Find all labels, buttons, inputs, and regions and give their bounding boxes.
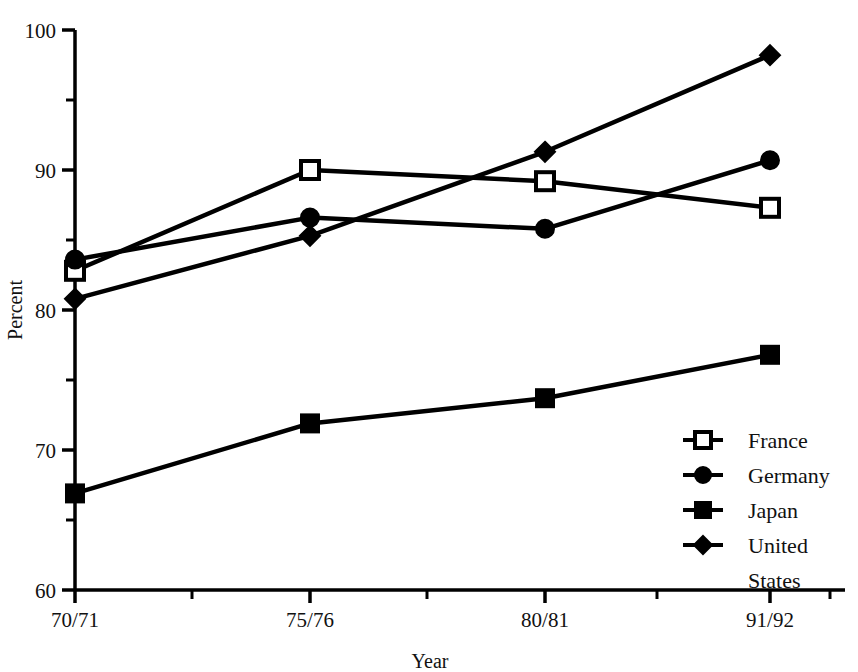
data-point-united-states-91-92 — [760, 45, 780, 65]
data-point-france-80-81 — [536, 172, 554, 190]
chart-container: 6070809010070/7175/7680/8191/92PercentYe… — [0, 0, 858, 672]
data-point-germany-80-81 — [536, 220, 554, 238]
legend-label-states: States — [748, 568, 801, 593]
legend-marker-united-states — [694, 536, 712, 554]
x-tick-label: 80/81 — [521, 608, 569, 632]
data-point-japan-80-81 — [536, 389, 554, 407]
data-point-japan-91-92 — [761, 346, 779, 364]
data-point-united-states-70-71 — [65, 289, 85, 309]
y-tick-label: 70 — [35, 439, 56, 463]
data-point-united-states-75-76 — [300, 226, 320, 246]
x-tick-label: 75/76 — [286, 608, 334, 632]
legend-label-japan: Japan — [748, 498, 798, 523]
legend-marker-france — [695, 432, 711, 448]
legend-marker-germany — [695, 467, 711, 483]
y-tick-label: 80 — [35, 299, 56, 323]
x-tick-label: 70/71 — [51, 608, 99, 632]
data-point-germany-91-92 — [761, 151, 779, 169]
series-line-japan — [75, 355, 770, 494]
legend-label-france: France — [748, 428, 808, 453]
y-tick-label: 100 — [25, 19, 57, 43]
line-chart: 6070809010070/7175/7680/8191/92PercentYe… — [0, 0, 858, 672]
data-point-germany-70-71 — [66, 251, 84, 269]
data-point-germany-75-76 — [301, 209, 319, 227]
legend-label-germany: Germany — [748, 463, 830, 488]
data-point-france-91-92 — [761, 199, 779, 217]
data-point-japan-75-76 — [301, 414, 319, 432]
y-tick-label: 90 — [35, 159, 56, 183]
x-axis-title: Year — [412, 650, 449, 672]
data-point-japan-70-71 — [66, 484, 84, 502]
y-tick-label: 60 — [35, 579, 56, 603]
legend-label-united: United — [748, 533, 808, 558]
x-tick-label: 91/92 — [746, 608, 794, 632]
data-point-france-75-76 — [301, 161, 319, 179]
legend-marker-japan — [695, 502, 711, 518]
data-point-united-states-80-81 — [535, 142, 555, 162]
y-axis-title: Percent — [4, 280, 26, 340]
series-line-france — [75, 170, 770, 271]
